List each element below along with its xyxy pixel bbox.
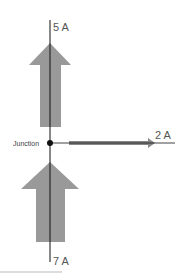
current-label-top: 5 A xyxy=(53,22,69,33)
junction-label: Junction xyxy=(13,140,39,147)
current-label-bottom: 7 A xyxy=(53,256,69,267)
current-label-right: 2 A xyxy=(155,130,171,141)
junction-dot xyxy=(47,140,53,146)
